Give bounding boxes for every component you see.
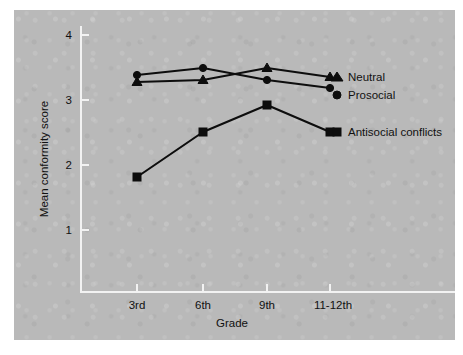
y-tick-label-3: 3 (66, 94, 72, 106)
legend-item-neutral: Neutral (331, 71, 385, 83)
y-tick-label-4: 4 (66, 29, 73, 41)
legend-label-neutral: Neutral (348, 71, 385, 83)
antisocial-point-6th (199, 128, 207, 136)
legend-item-prosocial: Prosocial (333, 89, 395, 101)
y-tick-label-1: 1 (66, 224, 72, 236)
series-antisocial-conflicts (133, 101, 334, 181)
antisocial-line (137, 105, 330, 177)
legend-label-prosocial: Prosocial (348, 89, 395, 101)
neutral-line (137, 68, 330, 82)
figure-container: 4 3 2 1 3rd 6th 9th 11-12th Grade Mean c… (0, 0, 463, 355)
legend: Neutral Prosocial Antisocial conflicts (331, 71, 442, 138)
legend-label-antisocial-conflicts: Antisocial conflicts (348, 126, 442, 138)
prosocial-point-6th (199, 64, 206, 71)
x-tick-label-11-12th: 11-12th (314, 299, 352, 311)
x-tick-label-3rd: 3rd (129, 299, 146, 311)
series-prosocial (133, 64, 333, 91)
x-tick-label-6th: 6th (195, 299, 211, 311)
antisocial-point-9th (263, 101, 271, 109)
legend-marker-square-icon (333, 128, 341, 136)
line-chart: 4 3 2 1 3rd 6th 9th 11-12th Grade Mean c… (0, 0, 463, 355)
prosocial-line (137, 68, 330, 88)
series-neutral (132, 63, 335, 86)
prosocial-point-11-12th (326, 84, 333, 91)
neutral-point-9th (262, 63, 272, 72)
legend-item-antisocial-conflicts: Antisocial conflicts (333, 126, 442, 138)
y-axis-title: Mean conformity score (38, 101, 50, 217)
prosocial-point-9th (263, 76, 270, 83)
y-tick-label-2: 2 (66, 159, 72, 171)
x-tick-labels-group: 3rd 6th 9th 11-12th (129, 299, 352, 311)
antisocial-point-3rd (133, 173, 141, 181)
legend-marker-circle-icon (333, 91, 341, 99)
y-tick-labels-group: 4 3 2 1 (66, 29, 73, 236)
x-axis-title: Grade (216, 317, 248, 329)
x-tick-label-9th: 9th (259, 299, 275, 311)
